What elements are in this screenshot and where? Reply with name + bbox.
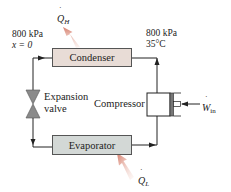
evaporator-to-compressor-line [132,116,157,148]
compressor-exit-state: 800 kPa 35°C [146,28,177,50]
work-in-arrow-icon [181,102,200,107]
condenser-box: Condenser [52,48,132,67]
expansion-valve-label-line1: Expansion [44,91,88,103]
dot-accent: · [205,92,208,101]
heat-in-arrow-icon [117,153,134,180]
heat-in-subscript: L [145,180,149,188]
heat-out-arrow-icon [63,27,80,48]
condenser-exit-quality: x = 0 [12,40,43,51]
compressor-exit-pressure: 800 kPa [146,28,177,39]
condenser-to-valve-line [33,56,52,91]
condenser-exit-pressure: 800 kPa [12,29,43,40]
expansion-valve-label-line2: valve [44,103,88,115]
compressor-icon [147,93,181,116]
condenser-exit-state: 800 kPa x = 0 [12,29,43,51]
work-in-label: · Win [202,97,216,115]
compressor-to-condenser-line [132,58,160,93]
heat-out-label: · QH [57,8,69,26]
expansion-valve-icon [26,90,40,118]
dot-accent: · [59,3,62,12]
dot-accent: · [140,165,143,174]
condenser-label: Condenser [70,52,115,63]
work-in-subscript: in [210,107,215,115]
evaporator-box: Evaporator [52,135,132,155]
evaporator-label: Evaporator [69,140,116,151]
expansion-valve-label: Expansion valve [44,91,88,115]
compressor-exit-temperature: 35°C [146,39,177,50]
compressor-label: Compressor [94,98,145,109]
heat-in-label: · QL [138,170,149,188]
heat-out-subscript: H [64,18,69,26]
valve-to-evaporator-line [31,118,53,147]
